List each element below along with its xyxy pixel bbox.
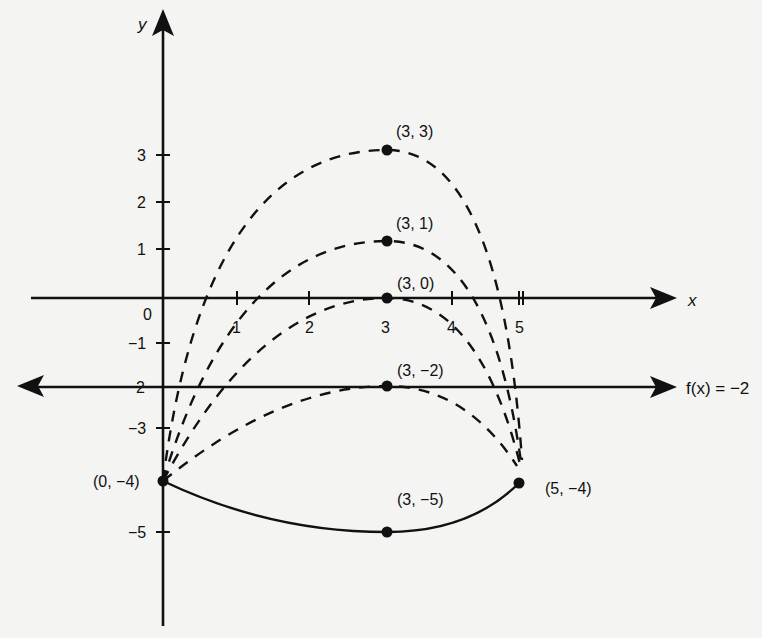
y-tick-label-neg5: −5 <box>128 524 146 541</box>
point-3-neg2 <box>382 381 393 392</box>
parabola-family-diagram: y x 0 1 2 3 4 5 3 2 1 −1 2 −3 −5 f(x) = … <box>0 0 762 638</box>
origin-label: 0 <box>143 306 152 323</box>
point-label-3-neg2: (3, −2) <box>397 362 444 379</box>
y-tick-label-neg1: −1 <box>128 335 146 352</box>
point-label-3-3: (3, 3) <box>396 123 433 140</box>
x-tick-label-3: 3 <box>381 319 390 336</box>
curve-vertex-3-3 <box>163 150 522 481</box>
point-label-3-1: (3, 1) <box>396 215 433 232</box>
x-tick-label-2: 2 <box>305 319 314 336</box>
point-3-neg5 <box>382 527 393 538</box>
y-tick-label-1: 1 <box>137 241 146 258</box>
point-0-neg4 <box>158 476 169 487</box>
curve-vertex-3-1 <box>163 241 521 481</box>
y-tick-label-2: 2 <box>137 194 146 211</box>
curve-vertex-3-m5 <box>163 481 519 532</box>
point-5-neg4 <box>514 478 525 489</box>
y-tick-label-3: 3 <box>137 147 146 164</box>
point-label-3-0: (3, 0) <box>397 275 434 292</box>
point-label-5-neg4: (5, −4) <box>545 480 592 497</box>
horizontal-line-label: f(x) = −2 <box>686 379 749 398</box>
y-tick-label-neg3: −3 <box>128 420 146 437</box>
point-3-1 <box>382 236 393 247</box>
point-label-0-neg4: (0, −4) <box>93 473 140 490</box>
x-tick-label-5: 5 <box>515 319 524 336</box>
curve-vertex-3-m2 <box>163 386 517 481</box>
point-3-3 <box>382 145 393 156</box>
point-label-3-neg5: (3, −5) <box>397 491 444 508</box>
x-axis-label: x <box>687 291 697 310</box>
point-3-0 <box>382 293 393 304</box>
y-axis-label: y <box>137 15 148 34</box>
